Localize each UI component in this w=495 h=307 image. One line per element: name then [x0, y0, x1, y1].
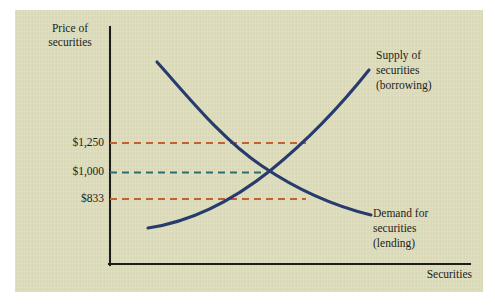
demand-curve [157, 62, 371, 215]
x-axis-title: Securities [386, 268, 472, 282]
price-tick-833: $833 [40, 192, 104, 204]
y-axis-title: Price of securities [36, 22, 104, 49]
curves [148, 62, 371, 228]
reference-lines [110, 143, 306, 199]
price-tick-1250: $1,250 [40, 136, 104, 148]
demand-curve-label: Demand for securities (lending) [373, 206, 428, 251]
price-tick-1000: $1,000 [40, 165, 104, 177]
figure-root: Price of securities Securities $1,250 $1… [0, 0, 495, 307]
supply-curve-label: Supply of securities (borrowing) [376, 48, 432, 93]
